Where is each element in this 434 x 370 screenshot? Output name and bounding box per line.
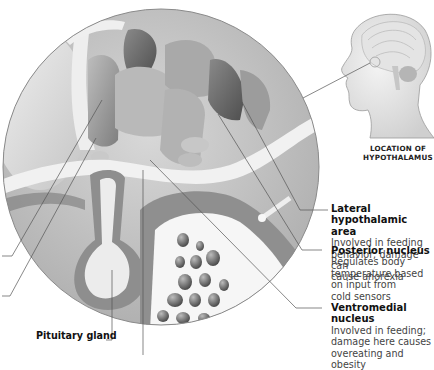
label-description: Involved in feeding; <box>331 325 434 336</box>
label-title: Posterior nucleus <box>331 245 434 256</box>
label-title: Lateral hypothalamic <box>331 203 434 226</box>
head-inset <box>342 14 434 138</box>
label-description: damage here causes <box>331 336 434 347</box>
label-description: on input from <box>331 279 434 290</box>
label-description: Regulates body <box>331 256 434 267</box>
label-pituitary-gland: Pituitary gland <box>36 330 117 341</box>
magnified-view <box>0 0 330 330</box>
label-description: cold sensors <box>331 291 434 302</box>
label-title: area <box>331 226 434 237</box>
label-posterior-nucleus: Posterior nucleus Regulates body tempera… <box>331 245 434 302</box>
label-title: Ventromedial nucleus <box>331 302 434 325</box>
label-description: temperature based <box>331 268 434 279</box>
inset-caption-line2: HYPOTHALAMUS <box>362 153 434 162</box>
inset-caption-line1: LOCATION OF <box>362 144 434 153</box>
label-ventromedial-nucleus: Ventromedial nucleus Involved in feeding… <box>331 302 434 370</box>
label-description: overeating and obesity <box>331 348 434 370</box>
inset-caption: LOCATION OF HYPOTHALAMUS <box>362 144 434 162</box>
